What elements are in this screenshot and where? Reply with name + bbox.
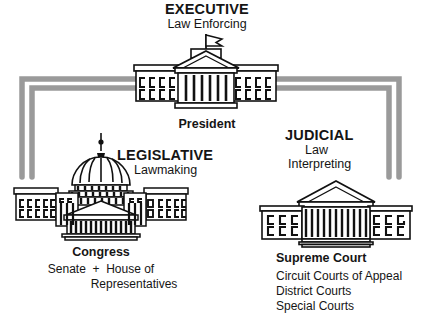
legislative-office-detail-line1: Senate + House of: [48, 262, 154, 277]
judicial-office-detail-line1: Circuit Courts of Appeal: [276, 269, 402, 284]
supreme-court-icon: [258, 178, 414, 248]
executive-subtitle: Law Enforcing: [167, 18, 246, 32]
legislative-office-detail-line2: Representatives: [91, 277, 178, 292]
legislative-subtitle: Lawmaking: [134, 164, 197, 178]
white-house-icon: [131, 32, 281, 112]
legislative-office-label: Congress: [72, 246, 130, 260]
judicial-office-detail-line2: District Courts: [276, 284, 351, 299]
judicial-subtitle-line2: Interpreting: [288, 158, 351, 172]
executive-office-label: President: [179, 118, 236, 132]
legislative-title: LEGISLATIVE: [117, 148, 213, 164]
executive-title: EXECUTIVE: [165, 2, 249, 18]
judicial-office-detail-line3: Special Courts: [276, 299, 354, 314]
three-branches-diagram: EXECUTIVE Law Enforcing President: [0, 0, 421, 323]
judicial-title: JUDICIAL: [285, 128, 353, 144]
judicial-office-label: Supreme Court: [276, 252, 366, 266]
judicial-subtitle-line1: Law: [305, 144, 328, 158]
